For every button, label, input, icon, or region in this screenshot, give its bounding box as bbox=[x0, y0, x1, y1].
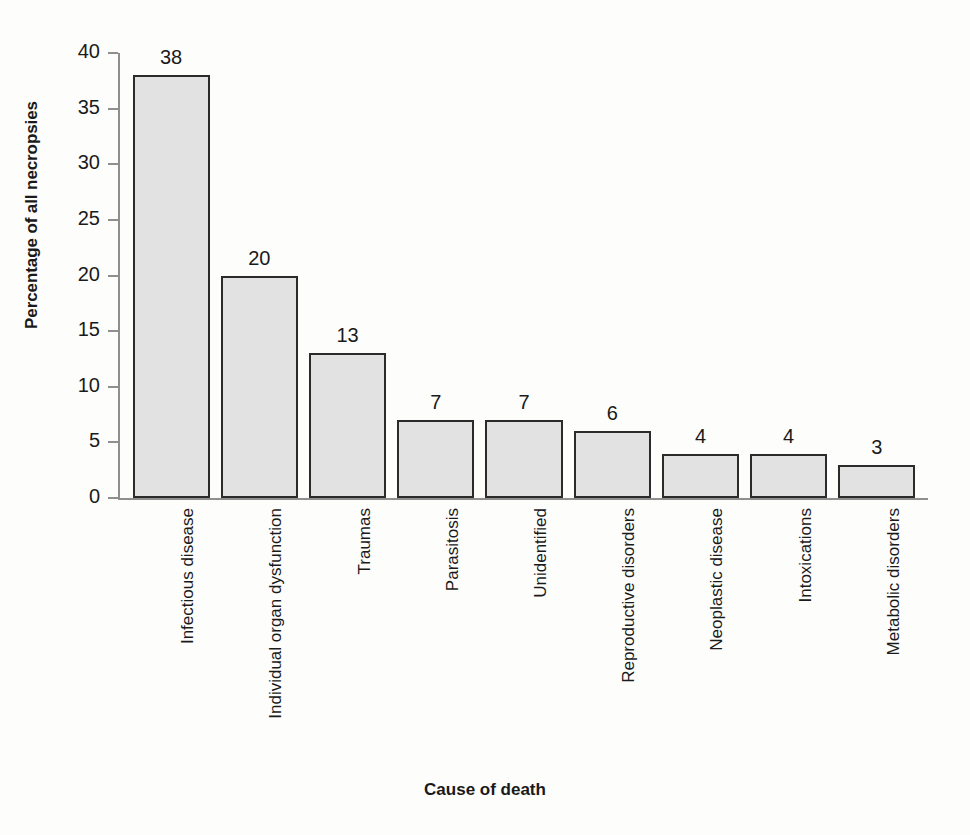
category-label: Intoxications bbox=[797, 508, 814, 603]
y-tick-label: 10 bbox=[78, 375, 108, 395]
bar-value-label: 7 bbox=[485, 392, 562, 412]
bar-group: 7 bbox=[485, 53, 562, 498]
y-tick-label: 25 bbox=[78, 208, 108, 228]
y-tick-40: 40 bbox=[108, 52, 118, 54]
bar bbox=[662, 454, 739, 499]
bar-group: 7 bbox=[397, 53, 474, 498]
x-axis-title: Cause of death bbox=[0, 780, 970, 800]
y-tick-label: 40 bbox=[78, 41, 108, 61]
bar-value-label: 3 bbox=[838, 437, 915, 457]
bar-chart-figure: Percentage of all necropsies 05101520253… bbox=[0, 0, 970, 835]
category-label: Metabolic disorders bbox=[885, 508, 902, 655]
bar-value-label: 4 bbox=[662, 426, 739, 446]
bar bbox=[397, 420, 474, 498]
bar-value-label: 4 bbox=[750, 426, 827, 446]
y-tick-15: 15 bbox=[108, 330, 118, 332]
y-tick-label: 30 bbox=[78, 152, 108, 172]
category-label: Traumas bbox=[356, 508, 373, 574]
bar-group: 38 bbox=[133, 53, 210, 498]
bar-value-label: 6 bbox=[574, 403, 651, 423]
category-label: Neoplastic disease bbox=[708, 508, 725, 651]
bar-value-label: 38 bbox=[133, 47, 210, 67]
category-label: Individual organ dysfunction bbox=[267, 508, 284, 719]
bar-group: 6 bbox=[574, 53, 651, 498]
bar bbox=[838, 465, 915, 498]
y-tick-10: 10 bbox=[108, 386, 118, 388]
bar bbox=[485, 420, 562, 498]
bar-value-label: 20 bbox=[221, 248, 298, 268]
y-tick-label: 20 bbox=[78, 264, 108, 284]
category-label: Parasitosis bbox=[444, 508, 461, 591]
y-tick-30: 30 bbox=[108, 163, 118, 165]
y-axis-title: Percentage of all necropsies bbox=[22, 95, 42, 335]
y-tick-label: 35 bbox=[78, 97, 108, 117]
y-tick-35: 35 bbox=[108, 108, 118, 110]
y-tick-25: 25 bbox=[108, 219, 118, 221]
y-tick-label: 0 bbox=[89, 486, 108, 506]
plot-area: 382013776443 bbox=[127, 53, 921, 498]
bar-group: 4 bbox=[662, 53, 739, 498]
y-tick-label: 5 bbox=[89, 430, 108, 450]
bar bbox=[750, 454, 827, 499]
bar-group: 4 bbox=[750, 53, 827, 498]
bar bbox=[309, 353, 386, 498]
y-tick-5: 5 bbox=[108, 441, 118, 443]
y-tick-20: 20 bbox=[108, 275, 118, 277]
bar-value-label: 7 bbox=[397, 392, 474, 412]
bar-value-label: 13 bbox=[309, 325, 386, 345]
bar-group: 20 bbox=[221, 53, 298, 498]
bar bbox=[221, 276, 298, 499]
bar bbox=[574, 431, 651, 498]
x-axis-line bbox=[118, 498, 928, 500]
bar bbox=[133, 75, 210, 498]
bar-group: 3 bbox=[838, 53, 915, 498]
y-tick-0: 0 bbox=[108, 497, 118, 499]
y-axis-line bbox=[118, 53, 120, 499]
bar-group: 13 bbox=[309, 53, 386, 498]
category-label: Infectious disease bbox=[179, 508, 196, 644]
category-label: Unidentified bbox=[532, 508, 549, 598]
category-label: Reproductive disorders bbox=[620, 508, 637, 683]
y-tick-label: 15 bbox=[78, 319, 108, 339]
